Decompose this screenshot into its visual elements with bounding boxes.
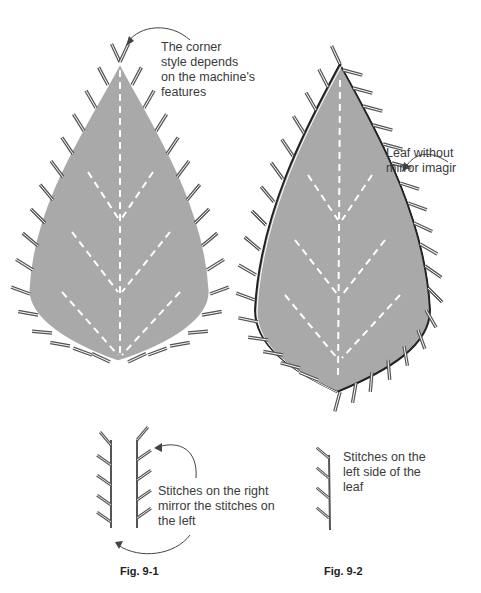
corner-style-annotation: The corner style depends on the machine'… [161,40,255,100]
leaf-without-mirror-annotation: Leaf without mirror imagir [386,146,456,176]
left-stitch-sample [317,448,330,530]
left-side-stitches-annotation: Stitches on the left side of the leaf [343,450,426,495]
mirror-stitches-annotation: Stitches on the right mirror the stitche… [158,484,275,529]
leaf-fig-9-2 [236,46,448,411]
figure-caption-9-2: Fig. 9-2 [324,565,363,577]
figure-caption-9-1: Fig. 9-1 [120,565,159,577]
